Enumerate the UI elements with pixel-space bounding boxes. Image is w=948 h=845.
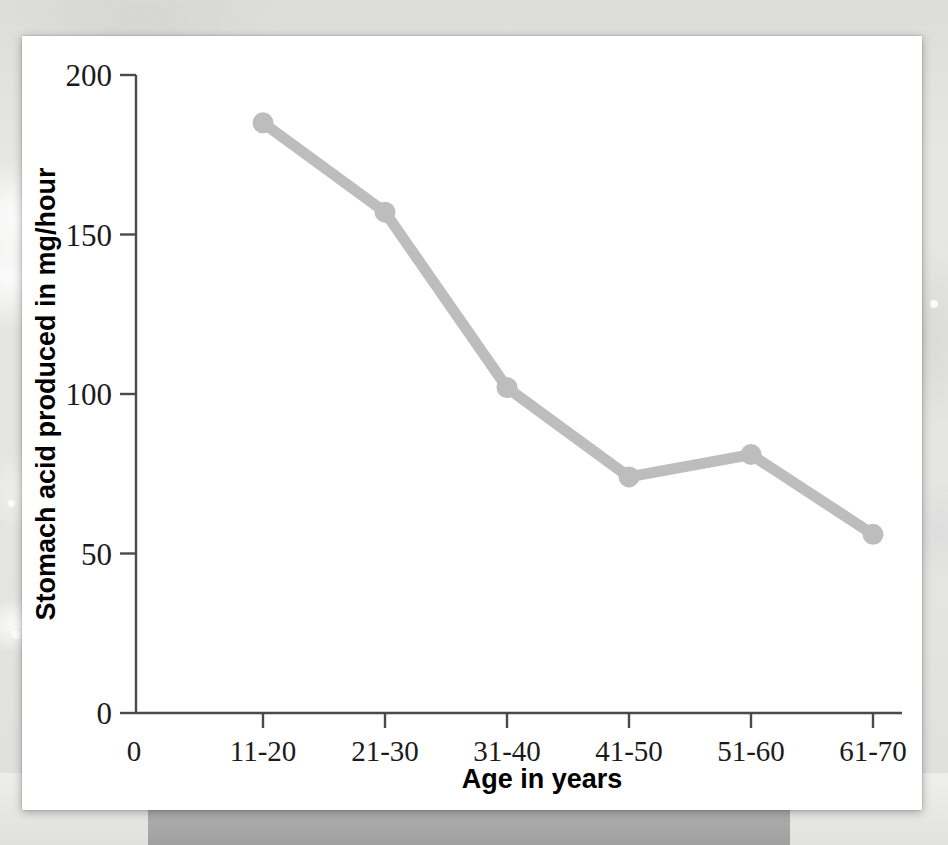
y-tick-label: 0 bbox=[97, 696, 113, 731]
data-series bbox=[253, 112, 884, 545]
x-tick-label: 21-30 bbox=[351, 735, 419, 767]
y-axis-title: Stomach acid produced in mg/hour bbox=[31, 167, 61, 621]
data-point-marker bbox=[863, 524, 884, 545]
data-point-marker bbox=[741, 444, 762, 465]
backdrop-speck bbox=[8, 500, 15, 507]
backdrop-speck bbox=[12, 630, 21, 639]
y-tick-label: 50 bbox=[81, 537, 112, 572]
data-point-marker bbox=[375, 202, 396, 223]
chart-card: 050100150200 011-2021-3031-4041-5051-606… bbox=[22, 36, 922, 810]
x-tick-label: 41-50 bbox=[595, 735, 663, 767]
y-tick-label: 100 bbox=[66, 377, 113, 412]
data-point-marker bbox=[497, 377, 518, 398]
y-tick-label: 150 bbox=[66, 218, 113, 253]
x-tick-label: 51-60 bbox=[717, 735, 785, 767]
x-tick-label: 61-70 bbox=[839, 735, 907, 767]
line-chart: 050100150200 011-2021-3031-4041-5051-606… bbox=[22, 36, 922, 810]
series-line bbox=[263, 123, 873, 535]
data-point-marker bbox=[253, 112, 274, 133]
y-tick-label: 200 bbox=[66, 58, 113, 93]
x-tick-label-origin: 0 bbox=[127, 735, 142, 767]
data-point-marker bbox=[619, 466, 640, 487]
x-axis-ticks: 011-2021-3031-4041-5051-6061-70 bbox=[127, 713, 907, 767]
x-axis-title: Age in years bbox=[462, 764, 623, 794]
y-axis-ticks: 050100150200 bbox=[66, 58, 137, 731]
chart-canvas: 050100150200 011-2021-3031-4041-5051-606… bbox=[22, 36, 922, 810]
backdrop-speck bbox=[930, 300, 938, 308]
x-tick-label: 31-40 bbox=[473, 735, 541, 767]
x-tick-label: 11-20 bbox=[230, 735, 297, 767]
